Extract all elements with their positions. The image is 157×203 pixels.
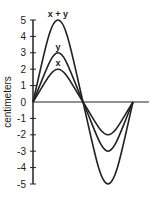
label-y: y [55,42,60,52]
tick-label: 4 [20,31,26,42]
tick-label: 3 [20,47,26,58]
tick-label: 2 [20,64,26,75]
tick-label: -4 [17,162,26,173]
tick-label: 0 [20,97,26,108]
tick-label: -3 [17,146,26,157]
tick-label: 1 [20,80,26,91]
tick-label: -1 [17,113,26,124]
tick-label: -2 [17,129,26,140]
label-x: x [55,58,60,68]
tick-label: 5 [20,15,26,26]
y-tick-labels: 5 4 3 2 1 0 -1 -2 -3 -4 -5 [17,15,26,190]
chart-canvas: 5 4 3 2 1 0 -1 -2 -3 -4 -5 centimeters x… [0,0,157,203]
tick-label: -5 [17,179,26,190]
label-x-plus-y: x + y [48,9,68,19]
y-axis-title: centimeters [2,76,13,128]
